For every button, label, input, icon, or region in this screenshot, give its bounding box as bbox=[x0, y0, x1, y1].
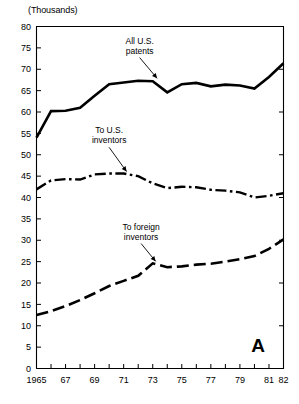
y-tick-label: 50 bbox=[21, 150, 31, 160]
y-tick-label: 40 bbox=[21, 193, 31, 203]
x-tick-label: 1965 bbox=[26, 375, 46, 385]
chart-plot-area: 05101520253035404550556065707580 1965676… bbox=[0, 0, 299, 404]
x-tick-label: 71 bbox=[119, 375, 129, 385]
annotation-label-to-us-inventors-line2: inventors bbox=[92, 135, 127, 145]
y-tick-label: 35 bbox=[21, 214, 31, 224]
annotation-label-all-us-patents: All U.S. bbox=[125, 36, 153, 46]
annotation-label-to-us-inventors: To U.S. bbox=[95, 125, 123, 135]
axes-frame bbox=[37, 27, 284, 369]
annotation-arrowhead-to-us-inventors bbox=[122, 166, 127, 171]
y-tick-label: 80 bbox=[21, 22, 31, 32]
x-tick-label: 67 bbox=[61, 375, 71, 385]
series-line-to-foreign-inventors bbox=[37, 239, 284, 315]
annotation-group: All U.S.patentsTo U.S.inventorsTo foreig… bbox=[92, 36, 160, 262]
annotation-label-all-us-patents-line2: patents bbox=[126, 46, 154, 56]
y-tick-label: 45 bbox=[21, 171, 31, 181]
y-tick-label: 65 bbox=[21, 86, 31, 96]
series-line-to-u-s-inventors bbox=[37, 174, 284, 198]
x-tick-label: 73 bbox=[148, 375, 158, 385]
y-tick-label: 5 bbox=[26, 342, 31, 352]
panel-letter-label: A bbox=[251, 335, 265, 356]
y-tick-label: 10 bbox=[21, 321, 31, 331]
y-tick-label: 70 bbox=[21, 64, 31, 74]
y-tick-label: 25 bbox=[21, 257, 31, 267]
y-tick-label: 30 bbox=[21, 235, 31, 245]
x-tick-label: 82 bbox=[278, 375, 288, 385]
y-tick-label: 60 bbox=[21, 107, 31, 117]
y-tick-label: 55 bbox=[21, 129, 31, 139]
x-tick-label: 75 bbox=[177, 375, 187, 385]
annotation-label-to-foreign-inventors-line2: inventors bbox=[124, 232, 159, 242]
y-tick-label: 0 bbox=[26, 364, 31, 374]
data-series-group bbox=[37, 63, 284, 315]
y-tick-label: 75 bbox=[21, 43, 31, 53]
y-tick-label: 20 bbox=[21, 278, 31, 288]
y-tick-label: 15 bbox=[21, 300, 31, 310]
series-line-all-u-s-patents bbox=[37, 63, 284, 137]
y-axis-ticks: 05101520253035404550556065707580 bbox=[21, 22, 284, 374]
annotation-label-to-foreign-inventors: To foreign bbox=[122, 222, 160, 232]
x-tick-label: 79 bbox=[235, 375, 245, 385]
x-tick-label: 77 bbox=[206, 375, 216, 385]
plot-frame bbox=[37, 27, 284, 369]
patents-chart-figure: (Thousands) 0510152025303540455055606570… bbox=[0, 0, 299, 404]
x-axis-ticks: 1965676971737577798182 bbox=[26, 364, 288, 385]
x-tick-label: 81 bbox=[264, 375, 274, 385]
x-tick-label: 69 bbox=[90, 375, 100, 385]
